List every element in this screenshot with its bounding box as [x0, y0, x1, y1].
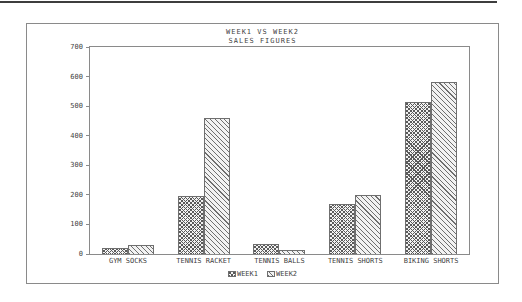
bar-group: BIKING SHORTS — [393, 47, 469, 254]
legend-label: WEEK2 — [276, 270, 297, 278]
y-axis-tick-label: 600 — [70, 73, 83, 81]
chart-title: WEEK1 VS WEEK2 — [27, 28, 498, 36]
bar-week1-gym-socks — [102, 248, 128, 254]
bar-week2-tennis-balls — [279, 250, 305, 254]
y-axis-tick-label: 300 — [70, 161, 83, 169]
y-axis-tick-label: 200 — [70, 191, 83, 199]
chart-frame: WEEK1 VS WEEK2 SALES FIGURES 01002003004… — [26, 23, 499, 284]
bar-week1-biking-shorts — [405, 102, 431, 254]
y-axis-tick-label: 700 — [70, 43, 83, 51]
x-axis-category-label: TENNIS SHORTS — [317, 257, 393, 265]
chart-subtitle: SALES FIGURES — [27, 37, 498, 45]
x-axis-category-label: TENNIS RACKET — [166, 257, 242, 265]
bar-week1-tennis-racket — [178, 196, 204, 254]
bar-group: GYM SOCKS — [90, 47, 166, 254]
legend-swatch-icon — [267, 271, 275, 277]
legend: WEEK1WEEK2 — [27, 270, 498, 278]
bar-group: TENNIS BALLS — [242, 47, 318, 254]
x-axis-category-label: GYM SOCKS — [90, 257, 166, 265]
plot-area: 0100200300400500600700GYM SOCKSTENNIS RA… — [89, 46, 470, 255]
y-axis-tick-label: 500 — [70, 102, 83, 110]
legend-label: WEEK1 — [237, 270, 258, 278]
x-axis-category-label: BIKING SHORTS — [393, 257, 469, 265]
bar-week2-biking-shorts — [431, 82, 457, 254]
bar-week1-tennis-balls — [253, 244, 279, 254]
top-divider — [0, 1, 497, 3]
bar-week2-tennis-shorts — [355, 195, 381, 254]
bar-week2-gym-socks — [128, 245, 154, 254]
x-axis-category-label: TENNIS BALLS — [242, 257, 318, 265]
bar-group: TENNIS SHORTS — [317, 47, 393, 254]
y-axis-tick-label: 0 — [79, 250, 83, 258]
legend-swatch-icon — [228, 271, 236, 277]
bar-week2-tennis-racket — [204, 118, 230, 254]
y-axis-tick-label: 100 — [70, 220, 83, 228]
bar-week1-tennis-shorts — [329, 204, 355, 254]
y-axis-tick-label: 400 — [70, 132, 83, 140]
bar-group: TENNIS RACKET — [166, 47, 242, 254]
chart-screenshot: WEEK1 VS WEEK2 SALES FIGURES 01002003004… — [0, 0, 522, 302]
legend-entry-week2: WEEK2 — [267, 270, 297, 278]
legend-entry-week1: WEEK1 — [228, 270, 258, 278]
